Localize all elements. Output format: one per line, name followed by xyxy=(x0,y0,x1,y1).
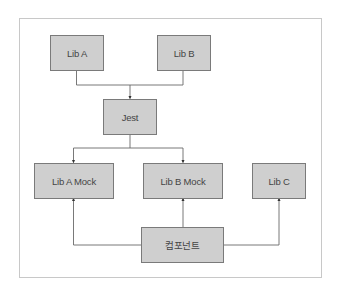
node-jest-label: Jest xyxy=(122,112,139,123)
node-component: 컴포넌트 xyxy=(141,227,224,263)
node-lib-a-label: Lib A xyxy=(67,48,87,59)
node-lib-b-mock: Lib B Mock xyxy=(143,163,223,199)
node-lib-b: Lib B xyxy=(157,35,211,71)
node-lib-c-label: Lib C xyxy=(268,176,289,187)
node-lib-a: Lib A xyxy=(50,35,104,71)
node-lib-a-mock-label: Lib A Mock xyxy=(52,176,96,187)
node-lib-b-label: Lib B xyxy=(174,48,195,59)
node-component-label: 컴포넌트 xyxy=(165,238,200,252)
node-lib-b-mock-label: Lib B Mock xyxy=(161,176,206,187)
node-lib-a-mock: Lib A Mock xyxy=(34,163,114,199)
node-lib-c: Lib C xyxy=(252,163,306,199)
node-jest: Jest xyxy=(103,99,157,135)
